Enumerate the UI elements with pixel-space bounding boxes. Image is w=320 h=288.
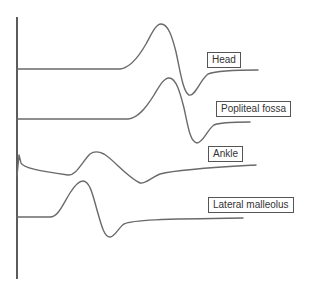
label-ankle: Ankle bbox=[208, 146, 243, 162]
label-popliteal-fossa: Popliteal fossa bbox=[216, 101, 291, 117]
waveform-diagram bbox=[0, 0, 320, 288]
label-lateral-malleolus: Lateral malleolus bbox=[208, 197, 294, 213]
label-head: Head bbox=[207, 52, 241, 68]
